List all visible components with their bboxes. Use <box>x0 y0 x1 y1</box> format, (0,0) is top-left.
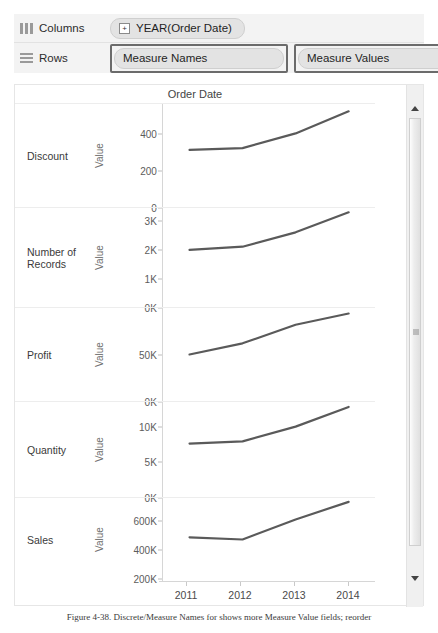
pill-year-order-date-label: YEAR(Order Date) <box>136 22 232 34</box>
columns-shelf[interactable]: Columns + YEAR(Order Date) <box>14 14 424 43</box>
x-tick-label: 2012 <box>228 589 251 601</box>
plot-area[interactable] <box>162 308 375 401</box>
y-tick-label: 200 <box>140 165 157 176</box>
rows-shelf[interactable]: Rows Measure Names Measure Values <box>14 43 424 73</box>
plot-area[interactable] <box>162 104 375 207</box>
y-tick-label: 600K <box>133 516 156 527</box>
y-axis-title: Value <box>87 308 112 401</box>
y-tick-label: 400K <box>133 545 156 556</box>
y-tick-label: 5K <box>145 457 157 468</box>
row-label: Sales <box>15 498 87 581</box>
y-tick-label: 3K <box>145 216 157 227</box>
y-axis-ticks: 0K5K10K <box>112 402 162 497</box>
shelf-area: Columns + YEAR(Order Date) Rows Measure … <box>14 14 424 73</box>
plot-area[interactable] <box>162 208 375 307</box>
panel-quantity: QuantityValue0K5K10K <box>15 401 375 497</box>
x-tick-mark <box>186 582 187 586</box>
y-axis-ticks: 0200400 <box>112 104 162 207</box>
line-series-sales <box>163 498 375 581</box>
figure-caption: Figure 4-38. Discrete/Measure Names for … <box>0 612 438 633</box>
x-tick-label: 2011 <box>175 589 198 601</box>
y-axis-title-text: Value <box>94 245 105 270</box>
scrollbar-thumb[interactable] <box>409 118 421 546</box>
scrollbar-grip-icon <box>413 330 419 335</box>
x-tick-mark <box>240 582 241 586</box>
columns-label-text: Columns <box>39 22 84 34</box>
columns-icon <box>20 23 33 34</box>
y-tick-label: 50K <box>139 350 157 361</box>
scroll-up-arrow-icon[interactable] <box>408 101 422 115</box>
row-label: Quantity <box>15 402 87 497</box>
x-axis: 2011201220132014 <box>159 581 375 608</box>
y-axis-title-text: Value <box>94 527 105 552</box>
y-axis-title-text: Value <box>94 342 105 367</box>
rows-icon <box>20 53 33 64</box>
y-axis-title: Value <box>87 498 112 581</box>
row-label: Number of Records <box>15 208 87 307</box>
panel-discount: DiscountValue0200400 <box>15 103 375 207</box>
rows-label-text: Rows <box>39 52 68 64</box>
columns-shelf-label: Columns <box>14 14 110 42</box>
expand-plus-icon[interactable]: + <box>119 23 130 34</box>
panel-number-of-records: Number of RecordsValue0K1K2K3K <box>15 207 375 307</box>
y-tick-label: 2K <box>145 245 157 256</box>
panel-profit: ProfitValue0K50K <box>15 307 375 401</box>
pill-measure-names[interactable]: Measure Names <box>114 48 284 69</box>
vertical-scrollbar[interactable] <box>406 85 423 607</box>
y-tick-label: 10K <box>139 421 157 432</box>
y-axis-title: Value <box>87 402 112 497</box>
line-series-profit <box>163 308 375 401</box>
line-series-number-of-records <box>163 208 375 307</box>
x-tick-label: 2013 <box>282 589 305 601</box>
pill-measure-values-selection[interactable]: Measure Values <box>294 44 438 73</box>
y-axis-ticks: 0K50K <box>112 308 162 401</box>
column-field-header: Order Date <box>15 85 375 103</box>
y-axis-title-text: Value <box>94 437 105 462</box>
row-label: Discount <box>15 104 87 207</box>
x-tick-mark <box>348 582 349 586</box>
row-label: Profit <box>15 308 87 401</box>
y-axis-ticks: 0K1K2K3K <box>112 208 162 307</box>
y-axis-ticks: 200K400K600K <box>112 498 162 581</box>
line-series-discount <box>163 104 375 207</box>
y-tick-label: 200K <box>133 574 156 585</box>
plot-area[interactable] <box>162 498 375 581</box>
y-tick-label: 400 <box>140 128 157 139</box>
scroll-down-arrow-icon[interactable] <box>408 571 422 585</box>
pill-year-order-date[interactable]: + YEAR(Order Date) <box>110 18 245 39</box>
x-tick-mark <box>294 582 295 586</box>
line-series-quantity <box>163 402 375 497</box>
panel-sales: SalesValue200K400K600K <box>15 497 375 581</box>
y-axis-title: Value <box>87 104 112 207</box>
pill-measure-names-selection[interactable]: Measure Names <box>110 44 288 73</box>
panel-stack: DiscountValue0200400Number of RecordsVal… <box>15 103 375 581</box>
viz-canvas: Order Date DiscountValue0200400Number of… <box>14 84 424 606</box>
y-tick-label: 1K <box>145 274 157 285</box>
plot-area[interactable] <box>162 402 375 497</box>
y-axis-title-text: Value <box>94 143 105 168</box>
rows-shelf-label: Rows <box>14 43 110 73</box>
x-tick-label: 2014 <box>336 589 359 601</box>
tableau-worksheet: Columns + YEAR(Order Date) Rows Measure … <box>0 0 438 633</box>
y-axis-title: Value <box>87 208 112 307</box>
pill-measure-values[interactable]: Measure Values <box>298 48 438 69</box>
